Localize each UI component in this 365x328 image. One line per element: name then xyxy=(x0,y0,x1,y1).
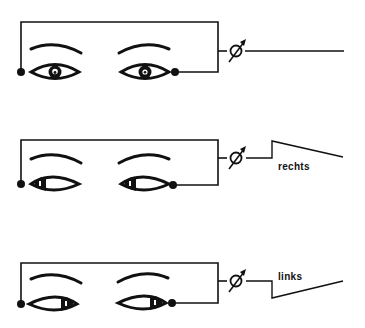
panel-left: links xyxy=(17,263,343,311)
signal-trace xyxy=(246,141,343,158)
panel-right: rechts xyxy=(17,140,343,191)
right-eye xyxy=(119,155,169,191)
electrode-dot-icon xyxy=(17,180,25,188)
galvanometer-meter-icon xyxy=(229,146,246,169)
electrode-dot-icon xyxy=(17,300,25,308)
signal-trace xyxy=(246,281,343,298)
galvanometer-meter-icon xyxy=(229,39,246,62)
trace-label-links: links xyxy=(278,271,302,282)
right-eye xyxy=(119,45,169,79)
electrode-dot-icon xyxy=(171,68,179,76)
eyebrow-icon xyxy=(31,275,81,283)
right-eye xyxy=(118,274,168,310)
left-eye xyxy=(31,45,81,79)
left-eye xyxy=(31,155,81,191)
eyebrow-icon xyxy=(119,45,169,53)
panel-center xyxy=(17,22,344,79)
eyebrow-icon xyxy=(119,155,169,163)
electrode-dot-icon xyxy=(17,68,25,76)
eyebrow-icon xyxy=(31,45,81,53)
electrode-dot-icon xyxy=(168,299,176,307)
eyebrow-icon xyxy=(118,274,168,282)
eog-diagram: rechts links xyxy=(0,0,365,328)
trace-label-rechts: rechts xyxy=(278,161,310,172)
eyebrow-icon xyxy=(31,155,81,163)
galvanometer-meter-icon xyxy=(229,269,246,292)
left-eye xyxy=(29,275,81,311)
